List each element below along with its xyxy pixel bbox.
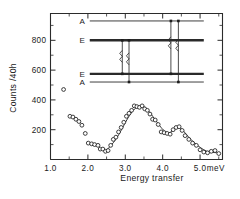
data-point bbox=[62, 88, 66, 92]
data-point bbox=[80, 123, 84, 127]
inset-level-labels: AEEA bbox=[79, 17, 85, 87]
data-point bbox=[183, 134, 187, 138]
data-point bbox=[122, 120, 126, 124]
energy-level-label: E bbox=[79, 36, 84, 45]
y-axis-ticks bbox=[51, 25, 223, 159]
y-tick-label: 200 bbox=[32, 126, 47, 135]
plot-frame bbox=[51, 14, 223, 160]
data-point bbox=[117, 130, 121, 134]
inset-energy-levels bbox=[90, 21, 204, 82]
transition-arrow-foot bbox=[177, 81, 180, 84]
x-tick-label: 1.0 bbox=[44, 164, 57, 173]
data-point bbox=[213, 149, 217, 153]
y-axis-title: Counts /40h bbox=[8, 63, 18, 113]
data-points bbox=[62, 88, 221, 156]
data-point bbox=[83, 132, 87, 136]
y-tick-label: 600 bbox=[32, 66, 47, 75]
data-point bbox=[206, 151, 210, 155]
neutron-spectrum-figure: 200400600800 1.02.03.04.05.0 meV Energy … bbox=[0, 0, 240, 199]
transition-arrow-foot bbox=[128, 81, 131, 84]
data-point bbox=[77, 120, 81, 124]
data-point bbox=[109, 143, 113, 147]
data-point bbox=[177, 125, 181, 129]
data-point bbox=[145, 108, 149, 112]
data-point bbox=[130, 108, 134, 112]
x-tick-label: 5.0 bbox=[194, 164, 207, 173]
data-point bbox=[156, 123, 160, 127]
data-point bbox=[106, 149, 110, 153]
axis-frame bbox=[51, 14, 223, 160]
energy-level-label: A bbox=[79, 78, 85, 87]
transition-arrow-foot bbox=[170, 73, 173, 76]
y-axis-tick-labels: 200400600800 bbox=[32, 36, 47, 134]
x-tick-label: 3.0 bbox=[119, 164, 132, 173]
data-point bbox=[209, 149, 213, 153]
y-tick-label: 800 bbox=[32, 36, 47, 45]
transition-arrow-head bbox=[177, 20, 180, 23]
data-point bbox=[198, 148, 202, 152]
data-point bbox=[187, 137, 191, 141]
data-point bbox=[191, 141, 195, 145]
transition-arrow-head bbox=[121, 39, 124, 42]
data-point bbox=[180, 129, 184, 133]
data-point bbox=[119, 126, 123, 130]
transition-arrow-foot bbox=[121, 73, 124, 76]
chart-canvas: 200400600800 1.02.03.04.05.0 meV Energy … bbox=[0, 0, 240, 199]
data-point bbox=[217, 152, 221, 156]
x-tick-label: 2.0 bbox=[82, 164, 95, 173]
data-point bbox=[168, 132, 172, 136]
data-point bbox=[194, 143, 198, 147]
x-tick-label: 4.0 bbox=[156, 164, 169, 173]
x-axis-title: Energy transfer bbox=[120, 173, 183, 183]
data-point bbox=[202, 150, 206, 154]
data-point bbox=[148, 112, 152, 116]
fit-curve bbox=[106, 106, 219, 153]
data-point bbox=[96, 143, 100, 147]
data-point bbox=[114, 135, 118, 139]
energy-level-label: A bbox=[79, 17, 85, 26]
x-axis-ticks bbox=[51, 14, 219, 160]
y-tick-label: 400 bbox=[32, 96, 47, 105]
data-point bbox=[153, 118, 157, 122]
x-axis-tick-labels: 1.02.03.04.05.0 bbox=[44, 164, 206, 173]
transition-arrow-head bbox=[170, 20, 173, 23]
transition-arrow-head bbox=[128, 39, 131, 42]
x-axis-unit-label: meV bbox=[207, 164, 225, 173]
